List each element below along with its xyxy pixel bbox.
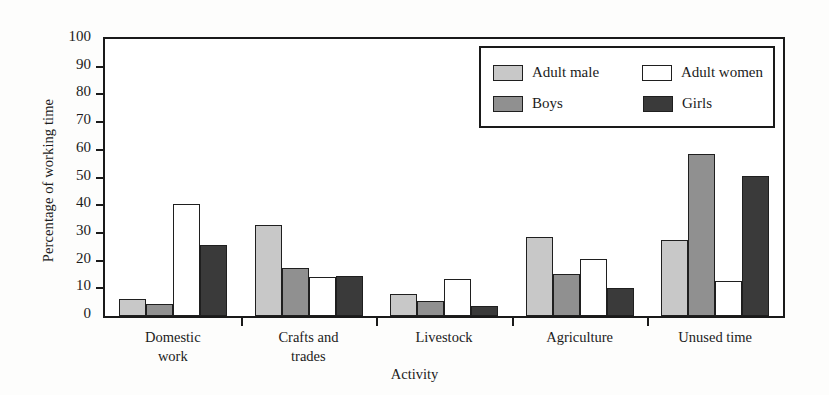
bar (688, 154, 715, 316)
x-tick-mark (376, 317, 378, 326)
bar (553, 274, 580, 316)
legend-label-adult-women: Adult women (681, 64, 763, 81)
legend-label-girls: Girls (682, 95, 712, 112)
y-tick-label: 70 (76, 111, 91, 128)
bar (282, 268, 309, 316)
y-tick-label: 90 (76, 56, 91, 73)
legend-item-boys: Boys (493, 95, 643, 112)
bar (661, 240, 688, 316)
y-tick-label: 10 (76, 277, 91, 294)
x-axis-label: Crafts andtrades (241, 328, 377, 365)
bar (580, 259, 607, 316)
x-axis-label: Agriculture (512, 328, 648, 347)
y-tick-label: 100 (69, 28, 92, 45)
x-tick-mark (241, 317, 243, 326)
x-axis-title: Activity (0, 366, 829, 383)
bar (309, 277, 336, 316)
x-tick-mark (512, 317, 514, 326)
x-tick-mark (647, 317, 649, 326)
bar-group (255, 39, 363, 316)
y-tick-label: 50 (76, 167, 91, 184)
legend: Adult male Adult women Boys Girls (479, 46, 775, 128)
legend-swatch-adult-male-icon (493, 65, 523, 81)
bar (742, 176, 769, 316)
legend-item-girls: Girls (643, 95, 712, 112)
legend-row-2: Boys Girls (493, 88, 763, 119)
bar (255, 225, 282, 316)
y-tick-label: 20 (76, 250, 91, 267)
bar (336, 276, 363, 316)
bar (715, 281, 742, 316)
y-tick-label: 40 (76, 194, 91, 211)
y-tick-label: 60 (76, 139, 91, 156)
x-axis-label: Livestock (376, 328, 512, 347)
bar (607, 288, 634, 316)
bar (146, 304, 173, 316)
legend-row-1: Adult male Adult women (493, 57, 763, 88)
legend-item-adult-male: Adult male (493, 64, 642, 81)
legend-label-adult-male: Adult male (532, 64, 599, 81)
legend-item-adult-women: Adult women (642, 64, 763, 81)
legend-label-boys: Boys (532, 95, 563, 112)
bar (444, 279, 471, 316)
legend-swatch-girls-icon (643, 96, 673, 112)
x-axis-label: Domesticwork (105, 328, 241, 365)
bar (200, 245, 227, 316)
bar (173, 204, 200, 316)
bar (390, 294, 417, 316)
bar (526, 237, 553, 316)
bar (471, 306, 498, 316)
y-tick-label: 80 (76, 83, 91, 100)
y-tick-label: 30 (76, 222, 91, 239)
bar-group (119, 39, 227, 316)
bar-chart-figure: Percentage of working time 0102030405060… (0, 0, 829, 395)
x-axis-label: Unused time (647, 328, 783, 347)
y-axis-title: Percentage of working time (40, 51, 57, 311)
bar (119, 299, 146, 316)
legend-swatch-boys-icon (493, 96, 523, 112)
y-tick-label: 0 (84, 305, 92, 322)
legend-swatch-adult-women-icon (642, 65, 672, 81)
bar (417, 301, 444, 316)
